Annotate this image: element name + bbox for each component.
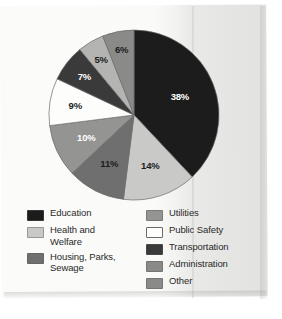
pie-slice-data-label: 11% [100, 158, 119, 169]
legend-item-label: Education [50, 207, 91, 219]
pie-chart-svg: 38%14%11%10%9%7%5%6% [48, 27, 220, 203]
legend-color-swatch [146, 244, 163, 255]
legend-item[interactable]: Education [27, 207, 126, 221]
legend-item-label: Public Safety [169, 224, 223, 236]
legend-item-label: Housing, Parks, Sewage [50, 251, 116, 274]
pie-slice-data-label: 10% [77, 132, 96, 143]
pie-slice-data-label: 6% [115, 44, 129, 55]
legend-color-swatch [146, 210, 163, 221]
pie-slice-data-label: 14% [141, 160, 160, 171]
legend-item-label: Transportation [169, 241, 229, 253]
legend-color-swatch [146, 261, 163, 272]
legend-color-swatch [27, 227, 44, 238]
legend-item-label: Utilities [169, 207, 199, 219]
legend-color-swatch [146, 227, 163, 238]
legend-item-label: Health and Welfare [50, 224, 95, 247]
legend-column-left: EducationHealth and WelfareHousing, Park… [27, 207, 126, 292]
legend-column-right: UtilitiesPublic SafetyTransportationAdmi… [146, 207, 245, 292]
pie-slice-data-label: 38% [171, 91, 190, 102]
pie-slice-group [49, 30, 219, 200]
legend-color-swatch [27, 253, 44, 264]
legend-color-swatch [27, 210, 44, 221]
legend-item[interactable]: Other [146, 275, 245, 289]
legend-item[interactable]: Housing, Parks, Sewage [27, 251, 126, 274]
pie-slice-data-label: 7% [78, 71, 92, 82]
pie-slice-data-label: 5% [94, 54, 108, 65]
chart-legend: EducationHealth and WelfareHousing, Park… [27, 207, 245, 292]
pie-slice-data-label: 9% [69, 100, 83, 111]
legend-item[interactable]: Utilities [146, 207, 245, 221]
legend-item[interactable]: Public Safety [146, 224, 245, 238]
legend-color-swatch [146, 278, 163, 289]
legend-item[interactable]: Health and Welfare [27, 224, 126, 247]
legend-item[interactable]: Transportation [146, 241, 245, 255]
legend-item-label: Administration [169, 258, 228, 270]
legend-item[interactable]: Administration [146, 258, 245, 272]
legend-item-label: Other [169, 275, 192, 287]
